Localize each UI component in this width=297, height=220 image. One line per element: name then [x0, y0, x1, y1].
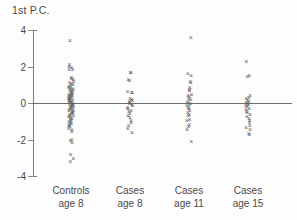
x-axis-label: Casesage 11 — [174, 184, 204, 210]
data-point: × — [70, 127, 74, 134]
x-axis-label-line2: age 15 — [233, 197, 264, 210]
data-point: × — [247, 131, 251, 138]
x-axis-label-line1: Controls — [52, 185, 89, 196]
x-axis-label-line1: Cases — [116, 185, 144, 196]
y-axis-tick-label: 0 — [4, 98, 26, 109]
data-point: × — [130, 128, 134, 135]
data-point: × — [189, 138, 193, 145]
chart-figure: 1st P.C. 420-2-4 ×××××××××××××××××××××××… — [0, 0, 297, 220]
data-point: × — [244, 58, 248, 65]
x-axis-label: Casesage 8 — [116, 184, 144, 210]
y-axis-tick-label: -4 — [4, 171, 26, 182]
x-axis-label-line1: Cases — [175, 185, 203, 196]
x-axis-label-line2: age 11 — [174, 197, 204, 210]
data-point: × — [71, 66, 75, 73]
y-axis-tick — [28, 176, 33, 177]
data-point: × — [70, 138, 74, 145]
y-axis-tick-label: 4 — [4, 25, 26, 36]
x-axis-label-line2: age 8 — [116, 197, 144, 210]
data-point: × — [128, 76, 132, 83]
data-point: × — [185, 126, 189, 133]
page-title: 1st P.C. — [12, 4, 50, 16]
y-axis-tick-label: 2 — [4, 61, 26, 72]
y-axis-tick-label: -2 — [4, 134, 26, 145]
data-point: × — [245, 72, 249, 79]
data-point: × — [189, 33, 193, 40]
data-point: × — [68, 158, 72, 165]
data-point: × — [129, 68, 133, 75]
x-axis-label: Casesage 15 — [233, 184, 264, 210]
x-axis-label-line1: Cases — [234, 185, 262, 196]
x-axis-label-line2: age 8 — [52, 197, 89, 210]
x-axis-label: Controlsage 8 — [52, 184, 89, 210]
data-point: × — [68, 37, 72, 44]
y-axis-cap-bottom — [33, 176, 37, 177]
